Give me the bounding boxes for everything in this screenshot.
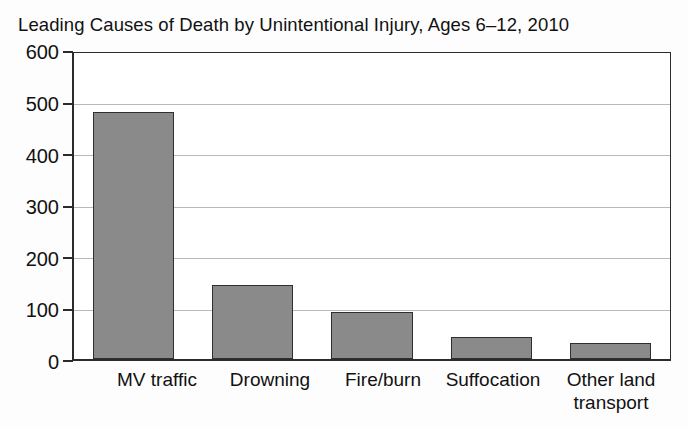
x-axis-label-other-land-transport-line2: transport <box>541 391 681 414</box>
chart-title: Leading Causes of Death by Unintentional… <box>18 14 569 36</box>
x-axis-label-drowning-line1: Drowning <box>205 368 335 391</box>
y-axis-label-300: 300 <box>0 197 59 217</box>
y-axis-label-400: 400 <box>0 146 59 166</box>
bar-other-land-transport <box>570 343 651 359</box>
bar-suffocation <box>451 337 532 359</box>
bar-fire-burn <box>331 312 412 359</box>
x-axis-label-other-land-transport-line1: Other land <box>541 368 681 391</box>
x-axis-label-other-land-transport: Other land transport <box>541 368 681 414</box>
bar-chart-figure: Leading Causes of Death by Unintentional… <box>0 0 688 427</box>
gridline-500 <box>74 104 670 105</box>
y-axis-label-200: 200 <box>0 249 59 269</box>
x-axis-label-mv-traffic: MV traffic <box>92 368 222 391</box>
y-axis-label-100: 100 <box>0 300 59 320</box>
x-axis-label-mv-traffic-line1: MV traffic <box>92 368 222 391</box>
y-axis-label-500: 500 <box>0 94 59 114</box>
y-axis-label-0: 0 <box>0 352 59 372</box>
bar-mv-traffic <box>93 112 174 359</box>
plot-area <box>72 52 671 361</box>
bar-drowning <box>212 285 293 359</box>
y-axis-label-600: 600 <box>0 42 59 62</box>
x-axis-label-drowning: Drowning <box>205 368 335 391</box>
